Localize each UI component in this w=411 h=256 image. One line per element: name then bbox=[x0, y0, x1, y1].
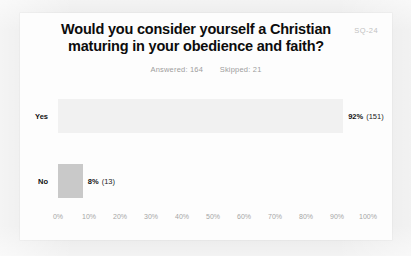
x-axis-tick: 100% bbox=[359, 213, 377, 220]
bar-count-yes: (151) bbox=[366, 112, 384, 121]
question-code-watermark: SQ-24 bbox=[354, 26, 378, 35]
page-title: Would you consider yourself a Christian … bbox=[46, 21, 346, 55]
x-axis-tick: 0% bbox=[53, 213, 63, 220]
skipped-count: Skipped: 21 bbox=[220, 65, 262, 74]
x-axis-tick: 60% bbox=[237, 213, 251, 220]
response-summary: Answered: 164 Skipped: 21 bbox=[20, 65, 392, 74]
bar-count-no: (13) bbox=[102, 177, 115, 186]
bar-yes[interactable] bbox=[58, 99, 343, 133]
bar-chart-plot-area: Yes 92%(151) No 8%(13) bbox=[20, 85, 392, 215]
bar-label-yes: Yes bbox=[20, 112, 48, 121]
bar-track-no: 8%(13) bbox=[58, 164, 388, 198]
chart-row-yes: Yes 92%(151) bbox=[20, 99, 392, 133]
bar-track-yes: 92%(151) bbox=[58, 99, 388, 133]
x-axis-tick: 80% bbox=[299, 213, 313, 220]
x-axis-tick: 90% bbox=[330, 213, 344, 220]
bar-value-yes: 92%(151) bbox=[348, 112, 384, 121]
x-axis: 0%10%20%30%40%50%60%70%80%90%100% bbox=[58, 213, 368, 227]
x-axis-tick: 50% bbox=[206, 213, 220, 220]
page-title-line-1: Would you consider yourself a Christian bbox=[46, 21, 346, 38]
x-axis-tick: 70% bbox=[268, 213, 282, 220]
bar-label-no: No bbox=[20, 177, 48, 186]
bar-percent-no: 8% bbox=[88, 177, 99, 186]
answered-count: Answered: 164 bbox=[150, 65, 203, 74]
bar-percent-yes: 92% bbox=[348, 112, 363, 121]
page-title-line-2: maturing in your obedience and faith? bbox=[46, 38, 346, 55]
chart-row-no: No 8%(13) bbox=[20, 164, 392, 198]
survey-result-card: Would you consider yourself a Christian … bbox=[20, 13, 392, 240]
x-axis-tick: 20% bbox=[113, 213, 127, 220]
x-axis-tick: 10% bbox=[82, 213, 96, 220]
bar-no[interactable] bbox=[58, 164, 83, 198]
bar-value-no: 8%(13) bbox=[88, 177, 115, 186]
x-axis-tick: 30% bbox=[144, 213, 158, 220]
x-axis-tick: 40% bbox=[175, 213, 189, 220]
